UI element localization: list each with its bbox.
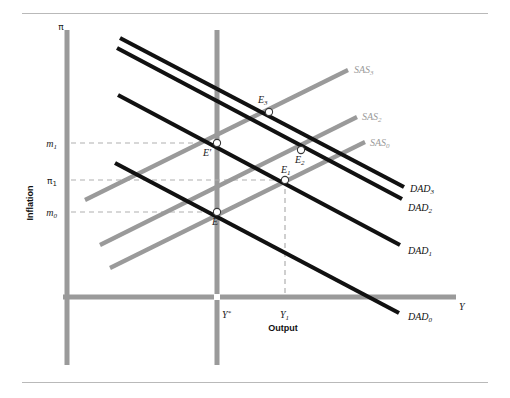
x-tick-labels-group: Y* Y1 [222,309,289,322]
x-tick-label-y1: Y1 [280,309,289,322]
y-axis-symbol: π [58,22,64,32]
y-tick-labels-group: m1 π1 m0 [46,138,57,220]
diagram-canvas: π Y m1 π1 m0 Y* Y1 Inflation Output SAS3… [0,0,510,398]
curve-sas2 [100,117,357,245]
curve-label-dad2: DAD2 [407,202,433,215]
y-tick-label-m1: m1 [46,138,57,151]
curve-dad1 [118,95,400,245]
curve-label-dad0: DAD0 [407,311,433,324]
y-tick-label-pi1: π1 [47,176,57,188]
point-marker-e2 [297,146,304,153]
point-marker-e3 [265,108,272,115]
top-divider-rule [22,13,488,14]
origin-marker [214,294,220,300]
point-label-e2: E2 [294,154,305,167]
equilibrium-points-group [213,108,304,300]
point-label-e3: E3 [257,94,268,107]
bottom-divider-rule [22,382,488,383]
curve-label-sas0: SAS0 [370,137,390,150]
y-axis-title: Inflation [25,186,35,221]
curve-label-dad1: DAD1 [407,245,432,258]
point-label-e1: E1 [280,164,291,177]
dad-curves-group [115,38,404,313]
point-marker-e [213,208,220,215]
curve-dad0 [115,163,399,313]
curve-label-sas2: SAS2 [362,111,382,124]
macro-dad-sas-diagram: π Y m1 π1 m0 Y* Y1 Inflation Output SAS3… [0,0,510,398]
curve-label-dad3: DAD3 [409,183,435,196]
x-tick-label-ystar: Y* [222,309,232,320]
point-label-eprime: E′ [202,147,212,158]
y-tick-label-m0: m0 [46,207,57,220]
x-axis-symbol: Y [459,301,466,312]
point-marker-eprime [213,139,220,146]
curve-label-sas3: SAS3 [354,64,374,77]
x-axis-title: Output [268,323,298,333]
point-label-e: E [211,216,218,227]
point-marker-e1 [281,176,288,183]
